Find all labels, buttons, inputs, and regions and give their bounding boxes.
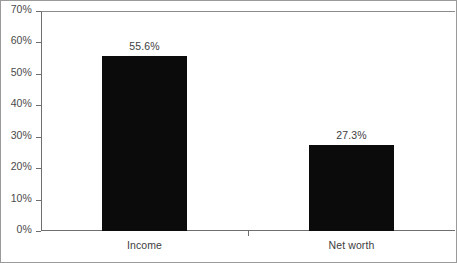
bar-chart-figure: 0%10%20%30%40%50%60%70% 55.6%27.3% Incom…	[0, 0, 457, 263]
y-tick-mark	[36, 42, 41, 43]
x-axis-category-label: Net worth	[292, 239, 412, 251]
y-tick-label: 50%	[11, 66, 32, 78]
bar-value-label: 27.3%	[312, 129, 392, 141]
y-tick-mark	[36, 231, 41, 232]
y-tick-mark	[36, 11, 41, 12]
y-tick-label: 0%	[17, 223, 32, 235]
y-tick-mark	[36, 74, 41, 75]
y-tick-label: 10%	[11, 192, 32, 204]
y-tick-label: 70%	[11, 3, 32, 15]
bar	[102, 56, 187, 231]
y-tick-mark	[36, 105, 41, 106]
y-tick-label: 20%	[11, 160, 32, 172]
bar-value-label: 55.6%	[105, 40, 185, 52]
x-axis-tick-mark	[248, 231, 249, 236]
y-tick-label: 60%	[11, 34, 32, 46]
y-tick-mark	[36, 168, 41, 169]
y-tick-mark	[36, 137, 41, 138]
y-tick-mark	[36, 200, 41, 201]
y-tick-label: 40%	[11, 97, 32, 109]
bar	[309, 145, 394, 231]
y-tick-label: 30%	[11, 129, 32, 141]
x-axis-category-label: Income	[85, 239, 205, 251]
